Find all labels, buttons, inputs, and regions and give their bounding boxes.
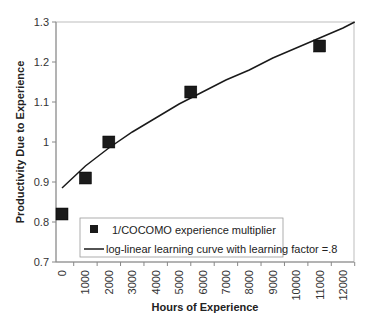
- y-tick-label: 1.2: [34, 56, 49, 68]
- x-axis-title: Hours of Experience: [152, 301, 259, 313]
- data-point-marker: [103, 136, 115, 148]
- y-axis: 0.70.80.911.11.21.3: [34, 16, 56, 268]
- data-point-marker: [56, 208, 68, 220]
- x-tick-label: 2000: [103, 270, 115, 294]
- x-tick-label: 12000: [337, 270, 349, 301]
- data-point-marker: [185, 86, 197, 98]
- x-tick-label: 3000: [126, 270, 138, 294]
- chart: 0.70.80.911.11.21.3 01000200030004000500…: [0, 0, 371, 328]
- y-tick-label: 0.7: [34, 256, 49, 268]
- x-tick-label: 9000: [267, 270, 279, 294]
- x-tick-label: 10000: [290, 270, 302, 301]
- learning-curve-line: [62, 22, 355, 188]
- square-marker-icon: [90, 225, 98, 233]
- y-tick-label: 0.8: [34, 216, 49, 228]
- x-tick-label: 5000: [173, 270, 185, 294]
- x-tick-label: 4000: [150, 270, 162, 294]
- cocomo-points: [56, 40, 326, 220]
- x-axis: 0100020003000400050006000700080009000100…: [56, 262, 355, 301]
- y-tick-label: 1.1: [34, 96, 49, 108]
- y-tick-label: 1.3: [34, 16, 49, 28]
- x-tick-label: 6000: [197, 270, 209, 294]
- y-axis-title: Productivity Due to Experience: [14, 61, 26, 224]
- data-point-marker: [79, 172, 91, 184]
- x-tick-label: 1000: [79, 270, 91, 294]
- legend-label: log-linear learning curve with learning …: [106, 243, 337, 255]
- x-tick-label: 7000: [220, 270, 232, 294]
- y-tick-label: 0.9: [34, 176, 49, 188]
- legend: 1/COCOMO experience multiplierlog-linear…: [80, 218, 337, 257]
- x-tick-label: 8000: [243, 270, 255, 294]
- x-tick-label: 11000: [314, 270, 326, 300]
- data-point-marker: [314, 40, 326, 52]
- legend-label: 1/COCOMO experience multiplier: [112, 224, 276, 236]
- x-tick-label: 0: [56, 270, 68, 276]
- y-tick-label: 1: [43, 136, 49, 148]
